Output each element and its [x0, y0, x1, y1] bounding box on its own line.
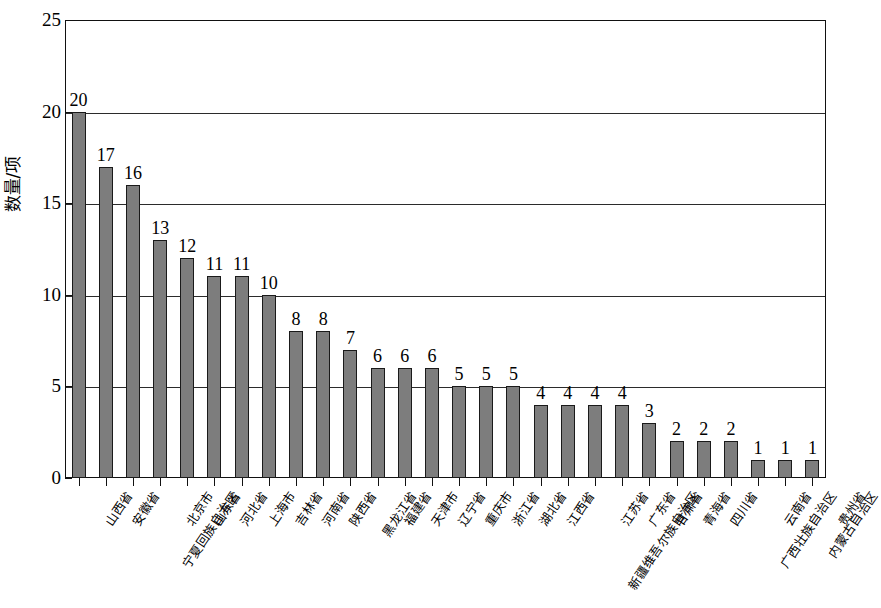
x-axis-tick-mark [731, 478, 732, 486]
x-axis-category-label: 河南省 [320, 489, 353, 529]
bar [262, 295, 276, 478]
bar [126, 185, 140, 478]
bars-layer: 201716131211111088766655544443222111 [65, 20, 826, 478]
bar-value-label: 1 [792, 439, 832, 457]
y-axis-tick-mark [65, 20, 72, 21]
bar-value-label: 4 [602, 384, 642, 402]
x-axis-tick-mark [133, 478, 134, 486]
bar [506, 386, 520, 478]
x-axis-category-label: 陕西省 [347, 489, 380, 529]
x-axis-tick-mark [106, 478, 107, 486]
bar [99, 167, 113, 478]
y-axis-tick-label: 5 [27, 376, 61, 395]
x-axis-tick-mark [486, 478, 487, 486]
bar [235, 276, 249, 478]
x-axis-tick-mark [187, 478, 188, 486]
bar [479, 386, 493, 478]
bar-value-label: 20 [59, 91, 99, 109]
x-axis-category-label: 甘肃省 [673, 489, 706, 529]
bar [642, 423, 656, 478]
x-axis-category-label: 江西省 [565, 489, 598, 529]
y-axis-tick-label: 25 [27, 10, 61, 29]
x-axis-tick-mark [785, 478, 786, 486]
y-axis-tick-mark [65, 386, 72, 387]
x-axis-tick-mark [350, 478, 351, 486]
x-axis-category-label: 浙江省 [510, 489, 543, 529]
bar-value-label: 10 [249, 274, 289, 292]
x-axis-tick-mark [378, 478, 379, 486]
x-axis-tick-mark [677, 478, 678, 486]
bar [371, 368, 385, 478]
x-axis-tick-mark [432, 478, 433, 486]
x-axis-tick-mark [649, 478, 650, 486]
y-axis-tick-label: 10 [27, 285, 61, 304]
x-axis-tick-mark [758, 478, 759, 486]
bar [778, 460, 792, 478]
bar [534, 405, 548, 478]
bar-value-label: 7 [330, 329, 370, 347]
y-axis-tick-labels: 0510152025 [20, 0, 61, 608]
y-axis-tick-mark [65, 112, 72, 113]
x-axis-category-label: 上海市 [266, 489, 299, 529]
x-axis-tick-mark [269, 478, 270, 486]
bar [289, 331, 303, 478]
bar-value-label: 6 [412, 347, 452, 365]
x-axis-category-label: 重庆市 [483, 489, 516, 529]
bar-value-label: 5 [493, 365, 533, 383]
x-axis-tick-mark [812, 478, 813, 486]
bar-value-label: 11 [222, 255, 262, 273]
bar [452, 386, 466, 478]
bar-value-label: 8 [303, 310, 343, 328]
y-axis-tick-mark [65, 478, 72, 479]
bar-value-label: 2 [711, 420, 751, 438]
bar [805, 460, 819, 478]
bar [180, 258, 194, 478]
x-axis-tick-mark [541, 478, 542, 486]
x-axis-tick-mark [568, 478, 569, 486]
x-axis-tick-mark [405, 478, 406, 486]
bar [724, 441, 738, 478]
bar [316, 331, 330, 478]
bar [153, 240, 167, 478]
bar [751, 460, 765, 478]
bar [697, 441, 711, 478]
x-axis-tick-mark [79, 478, 80, 486]
bar [207, 276, 221, 478]
x-axis-category-label: 辽宁省 [456, 489, 489, 529]
bar [561, 405, 575, 478]
x-axis-category-label: 湖北省 [537, 489, 570, 529]
bar-value-label: 13 [140, 219, 180, 237]
x-axis-tick-mark [296, 478, 297, 486]
x-axis-tick-mark [214, 478, 215, 486]
x-axis-tick-mark [704, 478, 705, 486]
x-axis-tick-mark [622, 478, 623, 486]
bar-value-label: 12 [167, 237, 207, 255]
bar-value-label: 17 [86, 146, 126, 164]
y-axis-tick-mark [65, 295, 72, 296]
bar-value-label: 16 [113, 164, 153, 182]
bar [398, 368, 412, 478]
x-axis-tick-mark [459, 478, 460, 486]
y-axis-tick-label: 20 [27, 102, 61, 121]
bar [588, 405, 602, 478]
x-axis-category-label: 江苏省 [619, 489, 652, 529]
bar [343, 350, 357, 478]
bar [670, 441, 684, 478]
x-axis-tick-mark [323, 478, 324, 486]
x-axis-category-label: 吉林省 [293, 489, 326, 529]
bar [615, 405, 629, 478]
y-axis-tick-label: 0 [27, 468, 61, 487]
x-axis-tick-mark [595, 478, 596, 486]
x-axis-tick-mark [160, 478, 161, 486]
x-axis-tick-mark [242, 478, 243, 486]
x-axis-category-label: 青海省 [700, 489, 733, 529]
x-axis-category-label: 山西省 [103, 489, 136, 529]
x-axis-category-label: 山东省 [211, 489, 244, 529]
bar [72, 112, 86, 478]
bar-value-label: 3 [629, 402, 669, 420]
x-axis-category-label: 河北省 [238, 489, 271, 529]
y-axis-tick-mark [65, 203, 72, 204]
y-axis-tick-label: 15 [27, 193, 61, 212]
x-axis-tick-mark [513, 478, 514, 486]
